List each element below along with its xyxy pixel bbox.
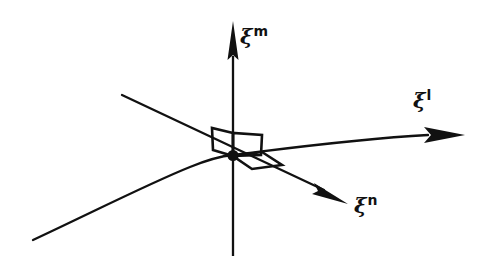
xi-m-label: ξm — [240, 24, 268, 47]
xi-m-label-superscript: m — [253, 23, 268, 39]
xi-m-arrowhead — [228, 21, 239, 60]
xi-n-arrowhead — [312, 183, 348, 204]
xi-l-label-superscript: l — [426, 87, 431, 103]
xi-l-arrowhead — [424, 127, 465, 143]
figure-container: ξm ξl ξn — [0, 0, 483, 270]
xi-n-line-path — [122, 95, 324, 190]
xi-n-label-superscript: n — [367, 192, 377, 208]
xi-l-axis — [33, 127, 465, 240]
xi-n-axis — [122, 95, 348, 204]
xi-n-label-base: ξ — [354, 193, 366, 218]
xi-n-label: ξn — [354, 193, 377, 216]
origin-node — [227, 150, 238, 161]
xi-l-label: ξl — [413, 88, 431, 111]
xi-m-label-base: ξ — [240, 24, 252, 49]
xi-l-label-base: ξ — [413, 88, 425, 113]
